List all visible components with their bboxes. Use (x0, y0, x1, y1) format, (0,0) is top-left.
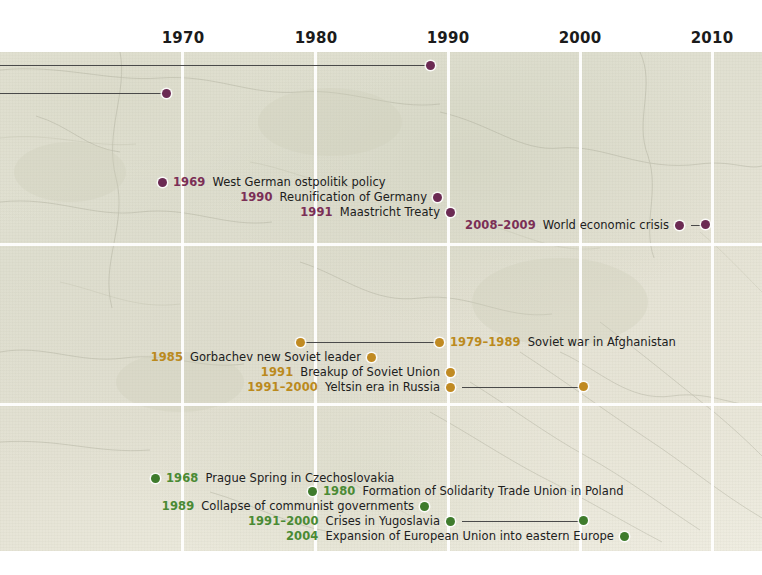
event-year: 1980 (323, 484, 355, 498)
timeline-event-eastern-europe-1968[interactable]: 1968Prague Spring in Czechoslovakia (151, 471, 394, 485)
event-marker-dot[interactable] (446, 368, 455, 377)
timeline-event-germany-europe-1969[interactable]: 1969West German ostpolitik policy (158, 175, 386, 189)
axis-tick-1970: 1970 (162, 29, 205, 47)
event-marker-dot[interactable] (446, 208, 455, 217)
event-marker-dot[interactable] (446, 383, 455, 392)
axis-tick-1990: 1990 (427, 29, 470, 47)
timeline-event-germany-europe-1991[interactable]: 1991Maastricht Treaty (0, 205, 455, 219)
event-description: Formation of Solidarity Trade Union in P… (362, 484, 623, 498)
event-marker-dot[interactable] (620, 532, 629, 541)
timeline-event-germany-europe-1990[interactable]: 1990Reunification of Germany (0, 190, 442, 204)
event-marker-dot[interactable] (446, 517, 455, 526)
lower-continuation-line-endpoint-dot[interactable] (162, 89, 171, 98)
event-year: 2004 (286, 529, 318, 543)
event-marker-dot[interactable] (158, 178, 167, 187)
event-year: 1991 (261, 365, 293, 379)
grid-line-horizontal (0, 403, 762, 406)
event-year: 1991 (300, 205, 332, 219)
timeline-event-eastern-europe-1980[interactable]: 1980Formation of Solidarity Trade Union … (308, 484, 624, 498)
upper-continuation-line (0, 65, 430, 66)
event-duration-bar (462, 387, 582, 388)
event-marker-dot[interactable] (420, 502, 429, 511)
event-description: Gorbachev new Soviet leader (190, 350, 361, 364)
event-duration-bar (304, 342, 436, 343)
year-axis: 19701980199020002010 (0, 0, 762, 52)
event-marker-dot-end[interactable] (579, 382, 588, 391)
axis-tick-1980: 1980 (295, 29, 338, 47)
event-year: 1990 (240, 190, 272, 204)
grid-line-vertical (447, 52, 450, 551)
event-year: 1985 (151, 350, 183, 364)
event-marker-dot[interactable] (296, 338, 305, 347)
event-description: Expansion of European Union into eastern… (325, 529, 614, 543)
event-marker-dot[interactable] (308, 487, 317, 496)
event-year: 1968 (166, 471, 198, 485)
grid-line-vertical (711, 52, 714, 551)
axis-tick-2010: 2010 (691, 29, 734, 47)
grid-line-vertical (579, 52, 582, 551)
event-marker-dot[interactable] (675, 221, 684, 230)
event-description: Maastricht Treaty (340, 205, 440, 219)
event-year: 1991–2000 (247, 380, 318, 394)
event-description: Prague Spring in Czechoslovakia (205, 471, 394, 485)
event-year: 1979–1989 (450, 335, 521, 349)
event-description: Reunification of Germany (280, 190, 427, 204)
event-description: World economic crisis (543, 218, 669, 232)
event-description: Soviet war in Afghanistan (528, 335, 676, 349)
event-marker-dot[interactable] (367, 353, 376, 362)
event-description: Crises in Yugoslavia (326, 514, 440, 528)
event-year: 1969 (173, 175, 205, 189)
event-year: 1991–2000 (248, 514, 319, 528)
event-description: Yeltsin era in Russia (325, 380, 440, 394)
event-description: Collapse of communist governments (201, 499, 414, 513)
timeline-event-eastern-europe-1991-2000[interactable]: 1991–2000Crises in Yugoslavia (0, 514, 455, 528)
event-marker-dot-end[interactable] (579, 516, 588, 525)
timeline-event-germany-europe-2008-2009[interactable]: 2008–2009World economic crisis (0, 218, 684, 232)
timeline-event-soviet-union-1979-1989[interactable]: 1979–1989Soviet war in Afghanistan (296, 335, 676, 349)
event-year: 2008–2009 (465, 218, 536, 232)
timeline-infographic: 19701980199020002010 (0, 0, 762, 575)
timeline-event-eastern-europe-1989[interactable]: 1989Collapse of communist governments (0, 499, 429, 513)
upper-continuation-line-endpoint-dot[interactable] (426, 61, 435, 70)
event-description: Breakup of Soviet Union (300, 365, 440, 379)
event-marker-dot[interactable] (433, 193, 442, 202)
event-marker-dot[interactable] (151, 474, 160, 483)
timeline-event-eastern-europe-2004[interactable]: 2004Expansion of European Union into eas… (0, 529, 629, 543)
axis-tick-2000: 2000 (559, 29, 602, 47)
event-marker-dot-end[interactable] (435, 338, 444, 347)
event-duration-bar (462, 521, 582, 522)
timeline-event-soviet-union-1991-2000[interactable]: 1991–2000Yeltsin era in Russia (0, 380, 455, 394)
event-marker-dot-end[interactable] (701, 220, 710, 229)
timeline-event-soviet-union-1991[interactable]: 1991Breakup of Soviet Union (0, 365, 455, 379)
grid-line-horizontal (0, 243, 762, 246)
timeline-event-soviet-union-1985[interactable]: 1985Gorbachev new Soviet leader (0, 350, 376, 364)
event-description: West German ostpolitik policy (212, 175, 385, 189)
lower-continuation-line (0, 93, 166, 94)
event-year: 1989 (162, 499, 194, 513)
